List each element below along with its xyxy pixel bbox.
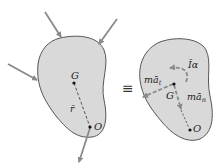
force-arrow-top-right: [99, 19, 117, 44]
label-O-left: O: [94, 121, 102, 132]
force-arrow-left: [8, 64, 37, 80]
right-rigid-body: [140, 39, 213, 141]
label-O-right: O: [193, 123, 201, 134]
diagram-canvas: G O r̄ ≡ G O Īα māt mān: [0, 0, 223, 167]
point-O-left: [88, 125, 91, 128]
force-arrow-top: [45, 12, 61, 37]
label-G-right: G: [166, 90, 174, 101]
point-O-right: [188, 128, 191, 131]
equivalence-symbol: ≡: [122, 80, 134, 96]
label-G-left: G: [71, 70, 79, 81]
point-G-left: [72, 81, 75, 84]
label-I-alpha: Īα: [187, 59, 199, 70]
point-G-right: [172, 82, 175, 85]
